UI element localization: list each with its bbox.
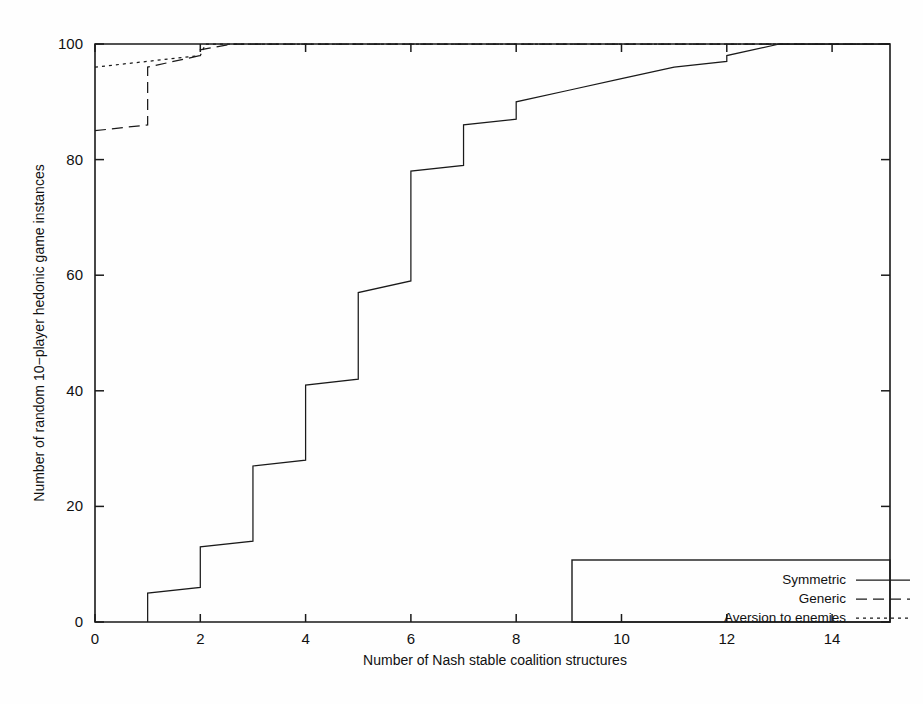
- x-axis-title: Number of Nash stable coalition structur…: [363, 652, 627, 668]
- y-tick-label: 80: [66, 151, 83, 168]
- y-tick-label: 20: [66, 497, 83, 514]
- y-tick-label: 60: [66, 266, 83, 283]
- legend-label: Symmetric: [782, 572, 846, 587]
- x-tick-label: 12: [718, 630, 735, 647]
- x-axis-tick-labels: 02468101214: [91, 630, 841, 647]
- series-aversion-to-enemies: [95, 44, 890, 67]
- y-axis-title: Number of random 10−player hedonic game …: [31, 164, 47, 501]
- y-tick-label: 100: [58, 35, 83, 52]
- x-tick-label: 2: [196, 630, 204, 647]
- y-tick-label: 40: [66, 382, 83, 399]
- series-generic: [95, 44, 890, 131]
- chart-figure: 02468101214 020406080100 Number of Nash …: [0, 0, 923, 704]
- y-axis-ticks: [95, 44, 890, 622]
- legend-label: Generic: [799, 591, 847, 606]
- chart-canvas: 02468101214 020406080100 Number of Nash …: [0, 0, 923, 704]
- x-tick-label: 8: [512, 630, 520, 647]
- legend-label: Aversion to enemies: [724, 610, 846, 625]
- x-tick-label: 4: [301, 630, 309, 647]
- y-tick-label: 0: [75, 613, 83, 630]
- data-series-group: [95, 44, 890, 622]
- x-tick-label: 0: [91, 630, 99, 647]
- x-tick-label: 6: [407, 630, 415, 647]
- y-axis-tick-labels: 020406080100: [58, 35, 83, 630]
- x-tick-label: 10: [613, 630, 630, 647]
- legend-items: SymmetricGenericAversion to enemies: [724, 572, 910, 625]
- series-symmetric: [148, 44, 890, 622]
- plot-frame: [95, 44, 890, 622]
- x-tick-label: 14: [824, 630, 841, 647]
- chart-legend: SymmetricGenericAversion to enemies: [572, 560, 910, 625]
